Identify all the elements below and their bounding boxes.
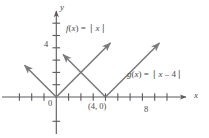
absolute-value-graph-figure: y x 4 8 0 (4, 0) f(x) = x g(x) = x – 4 — [0, 0, 209, 138]
function-label-f: f(x) = x — [66, 24, 107, 33]
y-axis — [53, 11, 61, 134]
y-axis-label: y — [60, 3, 64, 12]
x-axis — [2, 93, 186, 101]
y-tick-label-4: 4 — [44, 40, 48, 49]
point-label-4-0: (4, 0) — [88, 102, 106, 111]
origin-label: 0 — [48, 99, 52, 108]
x-axis-label: x — [194, 91, 198, 100]
function-label-g: g(x) = x – 4 — [127, 70, 183, 79]
x-tick-label-8: 8 — [144, 105, 148, 114]
